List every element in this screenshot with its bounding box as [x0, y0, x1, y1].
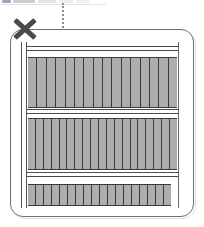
figure-canvas	[0, 0, 204, 227]
vertical-bar	[67, 119, 75, 169]
vertical-bar	[107, 119, 115, 169]
vertical-bar	[47, 58, 56, 107]
vertical-bar	[56, 58, 65, 107]
rail-below-band-top	[27, 109, 179, 114]
vertical-bar	[156, 185, 164, 205]
vertical-bar	[124, 185, 132, 205]
vertical-bar	[60, 119, 68, 169]
vertical-bar	[169, 58, 177, 107]
vertical-bar	[164, 185, 171, 205]
vertical-bar	[66, 58, 75, 107]
vertical-bar	[28, 58, 37, 107]
vertical-bar	[103, 58, 112, 107]
left-vertical-rail	[21, 42, 27, 208]
vertical-bar	[116, 185, 124, 205]
vertical-bar	[92, 185, 100, 205]
vertical-bar	[91, 119, 99, 169]
vertical-bar	[140, 185, 148, 205]
header-underline	[2, 4, 106, 5]
header-segment-1	[2, 0, 11, 3]
vertical-bar	[94, 58, 103, 107]
vertical-bar	[115, 119, 123, 169]
vertical-bar	[131, 119, 139, 169]
band-top	[28, 57, 177, 108]
band-middle	[28, 118, 177, 170]
vertical-bar	[37, 58, 46, 107]
right-vertical-rail	[178, 42, 179, 208]
vertical-bar	[84, 185, 92, 205]
vertical-bar	[52, 185, 60, 205]
vertical-bar	[138, 119, 146, 169]
vertical-bar	[44, 185, 52, 205]
header-segment-3	[38, 0, 56, 3]
vertical-bar	[28, 185, 36, 205]
vertical-bar	[76, 185, 84, 205]
vertical-bar	[68, 185, 76, 205]
vertical-bar	[122, 58, 131, 107]
vertical-bar	[132, 185, 140, 205]
vertical-bar	[83, 119, 91, 169]
vertical-bar	[75, 58, 84, 107]
vertical-bar	[75, 119, 83, 169]
header-segment-5	[76, 0, 90, 3]
vertical-bar	[162, 119, 170, 169]
vertical-bar	[108, 185, 116, 205]
vertical-bar	[52, 119, 60, 169]
vertical-bar	[44, 119, 52, 169]
vertical-bar	[123, 119, 131, 169]
x-annotation-icon	[12, 16, 38, 42]
vertical-bar	[100, 185, 108, 205]
vertical-bar	[99, 119, 107, 169]
vertical-bar	[36, 185, 44, 205]
vertical-bar	[146, 119, 154, 169]
header-segment-2	[13, 0, 35, 3]
vertical-bar	[154, 119, 162, 169]
vertical-bar	[141, 58, 150, 107]
vertical-bar	[148, 185, 156, 205]
band-bottom	[28, 184, 171, 206]
cut-off-header-strip	[2, 0, 92, 4]
vertical-bar	[150, 58, 159, 107]
rail-below-band-middle	[27, 172, 179, 177]
vertical-bar	[159, 58, 168, 107]
vertical-bar	[60, 185, 68, 205]
vertical-bar	[131, 58, 140, 107]
vertical-bar	[36, 119, 44, 169]
vertical-bar	[84, 58, 93, 107]
rail-above-band-top	[27, 46, 179, 51]
vertical-bar	[28, 119, 36, 169]
vertical-bar	[170, 119, 177, 169]
vertical-bar	[112, 58, 121, 107]
